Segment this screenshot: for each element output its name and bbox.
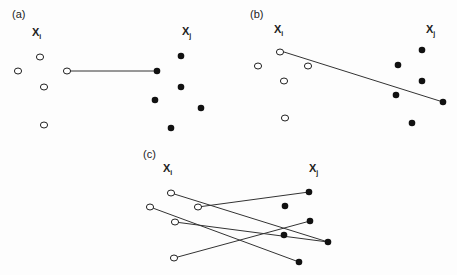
match-line <box>150 207 299 262</box>
match-line <box>284 52 443 102</box>
filled-point-xj <box>419 47 426 54</box>
match-line <box>175 222 328 242</box>
filled-point-xj <box>296 259 303 266</box>
open-point-xi <box>194 204 201 210</box>
open-point-xi <box>63 68 70 74</box>
open-point-xi <box>304 63 311 69</box>
panel-label: (a) <box>12 8 25 20</box>
diagram-canvas: (a)XiXj(b)XiXj(c)XiXj <box>0 0 457 275</box>
open-point-xi <box>40 122 47 128</box>
panel-label: (b) <box>250 8 263 20</box>
matching-diagram-figure: (a)XiXj(b)XiXj(c)XiXj <box>0 0 457 275</box>
filled-point-xj <box>152 97 159 104</box>
open-point-xi <box>167 190 174 196</box>
panel-b: (b)XiXj <box>250 8 446 126</box>
set-xi-label: Xi <box>163 162 172 176</box>
open-point-xi <box>171 219 178 225</box>
set-xj-label: Xj <box>309 162 318 177</box>
panel-a: (a)XiXj <box>12 8 204 131</box>
filled-point-xj <box>154 68 161 75</box>
set-xi-label: Xi <box>32 26 41 40</box>
open-point-xi <box>170 255 177 261</box>
filled-point-xj <box>409 120 416 127</box>
filled-point-xj <box>168 125 175 132</box>
set-xi-label: Xi <box>274 23 283 37</box>
filled-point-xj <box>307 218 314 225</box>
open-point-xi <box>276 49 283 55</box>
open-point-xi <box>36 54 43 60</box>
filled-point-xj <box>198 105 205 112</box>
filled-point-xj <box>178 53 185 60</box>
filled-point-xj <box>393 92 400 99</box>
panel-label: (c) <box>143 148 156 160</box>
set-xj-label: Xj <box>182 25 191 40</box>
filled-point-xj <box>419 78 426 85</box>
match-line <box>198 192 309 207</box>
open-point-xi <box>40 84 47 90</box>
open-point-xi <box>254 63 261 69</box>
filled-point-xj <box>178 84 185 91</box>
set-xj-label: Xj <box>426 23 435 38</box>
panel-c: (c)XiXj <box>143 148 331 265</box>
open-point-xi <box>281 115 288 121</box>
filled-point-xj <box>325 239 332 246</box>
open-point-xi <box>146 204 153 210</box>
filled-point-xj <box>281 232 288 239</box>
open-point-xi <box>280 78 287 84</box>
filled-point-xj <box>282 203 289 210</box>
filled-point-xj <box>306 189 313 196</box>
match-line <box>174 221 310 258</box>
filled-point-xj <box>440 99 447 106</box>
open-point-xi <box>14 68 21 74</box>
filled-point-xj <box>395 62 402 69</box>
